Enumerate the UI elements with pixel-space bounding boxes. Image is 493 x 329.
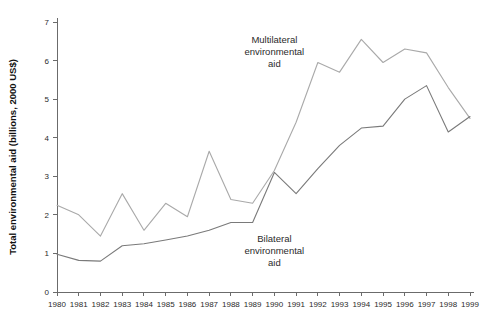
y-tick-label: 6	[45, 57, 50, 66]
series-line	[57, 39, 470, 236]
y-axis: 01234567	[45, 18, 57, 297]
bilateral-label: Bilateralenvironmentalaid	[245, 233, 305, 268]
x-tick-label: 1983	[113, 300, 131, 309]
x-tick-label: 1986	[179, 300, 197, 309]
y-axis-label-text: Total environmental aid (billions, 2000 …	[7, 59, 18, 255]
y-axis-title: Total environmental aid (billions, 2000 …	[7, 59, 18, 255]
y-tick-label: 5	[45, 95, 50, 104]
x-tick-label: 1988	[222, 300, 240, 309]
x-tick-label: 1995	[374, 300, 392, 309]
x-tick-label: 1999	[461, 300, 479, 309]
y-tick-label: 3	[45, 172, 50, 181]
x-tick-label: 1992	[309, 300, 327, 309]
x-tick-label: 1993	[331, 300, 349, 309]
chart-figure: 01234567 1980198119821983198419851986198…	[0, 0, 493, 329]
x-tick-label: 1996	[396, 300, 414, 309]
x-tick-label: 1981	[70, 300, 88, 309]
x-tick-label: 1987	[200, 300, 218, 309]
y-tick-label: 0	[45, 288, 50, 297]
multilateral-label: Multilateralenvironmentalaid	[245, 34, 305, 69]
line-chart: 01234567 1980198119821983198419851986198…	[0, 0, 493, 329]
x-tick-label: 1980	[48, 300, 66, 309]
chart-annotations: MultilateralenvironmentalaidBilateralenv…	[245, 34, 305, 268]
x-tick-label: 1989	[244, 300, 262, 309]
x-tick-label: 1994	[352, 300, 370, 309]
x-tick-label: 1984	[135, 300, 153, 309]
y-tick-label: 7	[45, 18, 50, 27]
series-lines	[57, 39, 470, 261]
x-axis: 1980198119821983198419851986198719881989…	[48, 292, 479, 309]
x-tick-label: 1991	[287, 300, 305, 309]
y-tick-label: 2	[45, 211, 50, 220]
y-tick-label: 4	[45, 134, 50, 143]
y-tick-label: 1	[45, 249, 50, 258]
x-tick-label: 1985	[157, 300, 175, 309]
x-tick-label: 1990	[265, 300, 283, 309]
x-tick-label: 1997	[418, 300, 436, 309]
x-tick-label: 1998	[439, 300, 457, 309]
x-tick-label: 1982	[92, 300, 110, 309]
